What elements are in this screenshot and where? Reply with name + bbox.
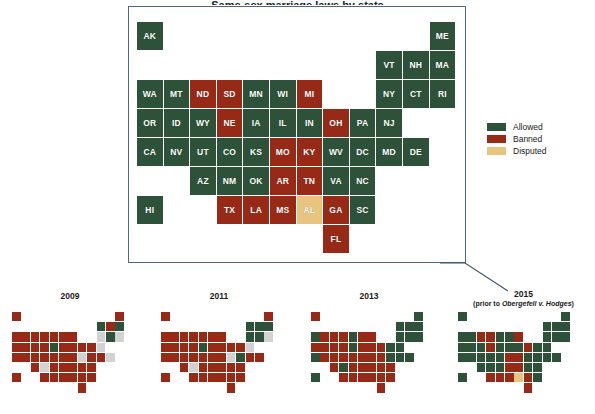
small-state-cell-il: [59, 343, 68, 352]
small-state-cell-ar: [59, 363, 68, 372]
state-cell-ma: MA: [430, 51, 456, 79]
small-state-cell-de: [552, 353, 561, 362]
small-state-cell-vt: [246, 322, 255, 331]
small-state-cell-nj: [543, 343, 552, 352]
figure-canvas: Same-sex marriage laws by state AKMEVTNH…: [0, 0, 595, 414]
state-cell-ca: CA: [137, 138, 163, 166]
small-state-cell-sd: [189, 332, 198, 341]
small-state-cell-ut: [180, 353, 189, 362]
year-label-2009: 2009: [20, 291, 120, 301]
state-cell-ks: KS: [243, 138, 269, 166]
small-state-cell-ar: [358, 363, 367, 372]
small-state-cell-de: [255, 353, 264, 362]
small-state-cell-ma: [264, 322, 273, 331]
small-state-cell-ky: [367, 353, 376, 362]
small-state-cell-tn: [68, 363, 77, 372]
small-map-2009: [12, 312, 137, 404]
small-state-cell-nd: [180, 332, 189, 341]
small-state-cell-wa: [12, 332, 21, 341]
state-cell-nh: NH: [403, 51, 429, 79]
year-text-2011: 2011: [210, 291, 228, 301]
small-state-cell-tx: [40, 373, 49, 382]
small-state-cell-va: [524, 363, 533, 372]
small-state-cell-mi: [68, 332, 77, 341]
small-state-cell-ga: [227, 373, 236, 382]
small-state-cell-ia: [199, 343, 208, 352]
small-state-cell-nv: [21, 353, 30, 362]
small-state-cell-de: [405, 353, 414, 362]
small-state-cell-va: [78, 363, 87, 372]
small-state-cell-me: [115, 312, 124, 321]
small-state-cell-nc: [386, 363, 395, 372]
small-state-cell-dc: [533, 353, 542, 362]
small-state-cell-ny: [396, 332, 405, 341]
small-state-cell-in: [367, 343, 376, 352]
small-state-cell-ia: [349, 343, 358, 352]
small-state-cell-tn: [514, 363, 523, 372]
state-cell-ut: UT: [190, 138, 216, 166]
small-state-cell-al: [217, 373, 226, 382]
state-cell-tx: TX: [217, 196, 243, 224]
small-map-2015: [458, 312, 583, 404]
state-cell-al: AL: [297, 196, 323, 224]
small-state-cell-ct: [405, 332, 414, 341]
small-state-cell-ak: [12, 312, 21, 321]
small-state-cell-mi: [217, 332, 226, 341]
state-cell-or: OR: [137, 109, 163, 137]
small-state-cell-ok: [199, 363, 208, 372]
small-state-cell-nj: [396, 343, 405, 352]
small-state-cell-vt: [97, 322, 106, 331]
year-label-2013: 2013: [319, 291, 419, 301]
state-cell-ia: IA: [243, 109, 269, 137]
small-state-cell-ca: [311, 353, 320, 362]
small-state-cell-pa: [87, 343, 96, 352]
small-state-cell-ne: [339, 343, 348, 352]
small-state-cell-ma: [115, 322, 124, 331]
small-state-cell-ky: [217, 353, 226, 362]
small-state-cell-la: [199, 373, 208, 382]
year-note-suffix: ): [572, 300, 574, 307]
small-state-cell-wi: [208, 332, 217, 341]
small-state-cell-ri: [115, 332, 124, 341]
small-state-cell-nj: [97, 343, 106, 352]
small-state-cell-ut: [330, 353, 339, 362]
small-state-cell-nh: [405, 322, 414, 331]
legend-label-disputed: Disputed: [513, 147, 547, 156]
small-state-cell-ne: [486, 343, 495, 352]
state-cell-ok: OK: [243, 167, 269, 195]
legend-item-banned: Banned: [487, 133, 587, 145]
small-state-cell-pa: [386, 343, 395, 352]
legend-label-allowed: Allowed: [513, 123, 543, 132]
small-state-cell-ga: [78, 373, 87, 382]
small-state-cell-ky: [68, 353, 77, 362]
small-state-cell-ak: [458, 312, 467, 321]
small-state-cell-nc: [87, 363, 96, 372]
small-state-cell-nd: [330, 332, 339, 341]
state-cell-mt: MT: [164, 80, 190, 108]
legend-item-disputed: Disputed: [487, 145, 587, 157]
small-state-cell-ia: [496, 343, 505, 352]
small-state-cell-mt: [170, 332, 179, 341]
state-cell-tn: TN: [297, 167, 323, 195]
small-state-cell-ms: [59, 373, 68, 382]
state-cell-ak: AK: [137, 22, 163, 50]
state-cell-ne: NE: [217, 109, 243, 137]
state-cell-va: VA: [323, 167, 349, 195]
state-cell-id: ID: [164, 109, 190, 137]
small-state-cell-sc: [87, 373, 96, 382]
small-state-cell-ca: [161, 353, 170, 362]
small-state-cell-la: [50, 373, 59, 382]
small-state-cell-tn: [367, 363, 376, 372]
year-text-2015: 2015: [514, 289, 533, 299]
small-state-cell-co: [486, 353, 495, 362]
small-state-cell-md: [97, 353, 106, 362]
small-state-cell-in: [217, 343, 226, 352]
small-state-cell-me: [264, 312, 273, 321]
small-state-cell-ar: [505, 363, 514, 372]
small-state-cell-co: [189, 353, 198, 362]
state-cell-il: IL: [270, 109, 296, 137]
small-state-cell-nv: [170, 353, 179, 362]
legend-swatch-banned: [487, 135, 506, 143]
small-state-cell-mo: [505, 353, 514, 362]
small-state-cell-ok: [349, 363, 358, 372]
